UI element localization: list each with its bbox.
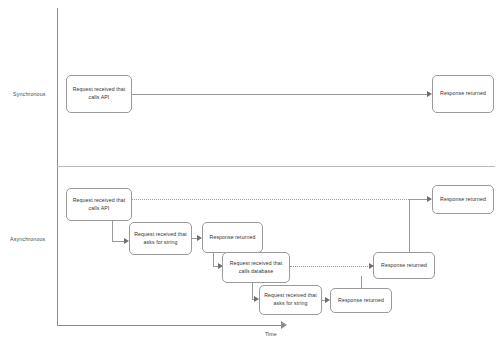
node-sync-response[interactable]: Response returned	[432, 75, 494, 113]
connector-sync-request-to-response	[132, 94, 429, 95]
node-async-response-database[interactable]: Response returned	[373, 252, 435, 279]
connector-response1-down	[213, 253, 214, 267]
x-axis-arrow-icon	[281, 321, 287, 329]
connector-database-dotted	[290, 266, 372, 267]
connector-api-down	[112, 221, 113, 242]
x-axis-label: Time	[265, 331, 277, 337]
connector-async-api-dotted	[132, 199, 409, 200]
lane-label-synchronous: Synchronous	[13, 91, 46, 97]
diagram-canvas: Synchronous Asynchronous Time Request re…	[0, 0, 503, 345]
connector-response-database-right	[409, 199, 429, 200]
lane-label-asynchronous: Asynchronous	[10, 236, 45, 242]
node-async-response-api[interactable]: Response returned	[432, 185, 494, 214]
x-axis	[57, 325, 283, 326]
node-async-request-api[interactable]: Request received that calls API	[66, 188, 132, 221]
node-async-response-string-1[interactable]: Response returned	[202, 222, 263, 253]
node-async-request-string-2[interactable]: Request received that asks for string	[259, 285, 322, 315]
node-async-request-string-1[interactable]: Request received that asks for string	[129, 222, 192, 255]
lane-divider	[57, 166, 495, 167]
node-sync-request[interactable]: Request received that calls API	[66, 75, 132, 113]
connector-database-down	[252, 283, 253, 300]
y-axis	[57, 8, 58, 326]
connector-response2-up	[361, 276, 362, 288]
node-async-request-database[interactable]: Request received that calls database	[222, 252, 290, 283]
connector-response-database-up	[409, 199, 410, 253]
node-async-response-string-2[interactable]: Response returned	[330, 288, 392, 313]
